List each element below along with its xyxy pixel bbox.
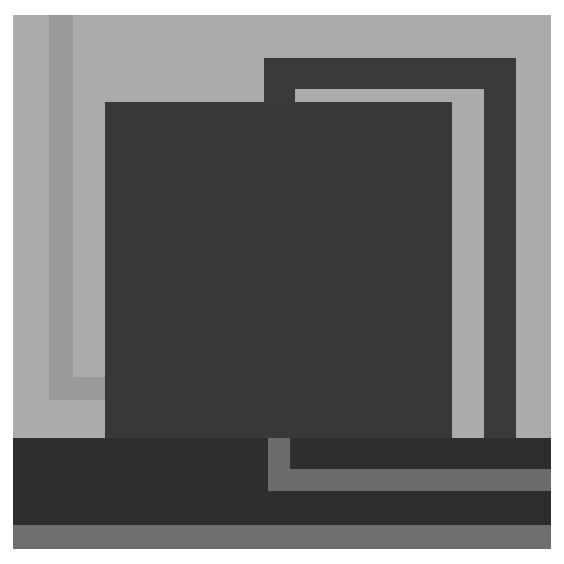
bottom-gray-strip: [13, 525, 551, 549]
dark-square: [105, 102, 452, 438]
bottom-l-horizontal: [268, 469, 551, 491]
artwork-canvas: [13, 15, 551, 549]
left-vertical-stripe: [49, 15, 73, 400]
left-stripe-foot: [49, 377, 109, 400]
